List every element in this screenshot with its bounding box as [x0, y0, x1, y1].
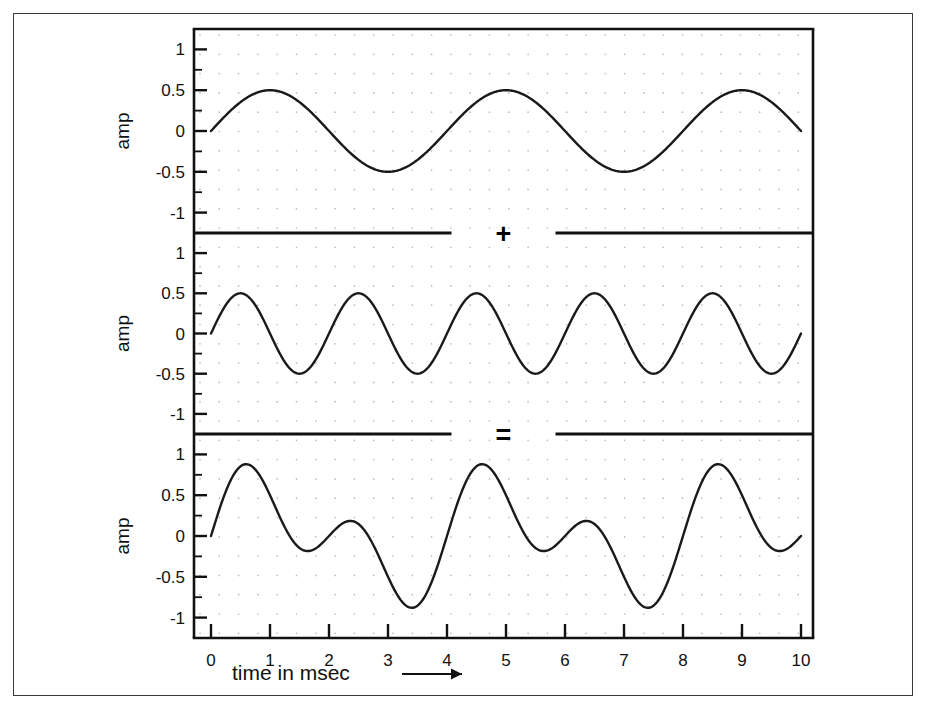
panel-separator-equals: =	[194, 420, 813, 450]
y-axis-label-bottom: amp	[112, 518, 133, 555]
waveform-bottom	[211, 464, 801, 608]
x-tick-label: 9	[737, 651, 746, 670]
y-tick-label: 0	[176, 325, 185, 344]
y-tick-label: 0.5	[161, 81, 185, 100]
x-tick-label: 8	[678, 651, 687, 670]
y-tick-label: 0.5	[161, 486, 185, 505]
y-tick-label: -0.5	[156, 163, 185, 182]
y-tick-label: 1	[176, 244, 185, 263]
plot-panel-middle: -1-0.500.51amp	[112, 233, 813, 434]
y-tick-label: 1	[176, 445, 185, 464]
y-tick-label: 0	[176, 527, 185, 546]
panel-separator-plus: +	[194, 219, 813, 249]
x-axis-arrow-head	[451, 669, 462, 680]
y-axis-label-middle: amp	[112, 315, 133, 352]
y-tick-label: -1	[170, 204, 185, 223]
operator-equals: =	[496, 420, 512, 450]
waveform-middle	[211, 293, 801, 373]
y-tick-label: -1	[170, 405, 185, 424]
x-tick-label: 4	[442, 651, 451, 670]
y-axis-label-top: amp	[112, 113, 133, 150]
plot-panel-bottom: -1-0.500.51amp	[112, 434, 813, 638]
x-tick-label: 7	[619, 651, 628, 670]
plot-box	[193, 29, 815, 638]
y-tick-label: -1	[170, 609, 185, 628]
figure-frame: -1-0.500.51amp-1-0.500.51amp-1-0.500.51a…	[13, 13, 913, 696]
background-grid	[199, 34, 799, 634]
operator-plus: +	[496, 219, 512, 249]
x-tick-label: 10	[792, 651, 811, 670]
y-tick-label: 0.5	[161, 284, 185, 303]
x-tick-label: 3	[383, 651, 392, 670]
x-axis-title: time in msec	[232, 661, 350, 684]
x-tick-label: 5	[501, 651, 510, 670]
y-tick-label: -0.5	[156, 568, 185, 587]
y-tick-label: -0.5	[156, 365, 185, 384]
x-tick-label: 6	[560, 651, 569, 670]
x-axis-title-group: time in msec	[232, 661, 462, 684]
y-tick-label: 0	[176, 122, 185, 141]
waveform-top	[211, 90, 801, 172]
plot-panel-top: -1-0.500.51amp	[112, 29, 813, 233]
x-tick-label: 0	[206, 651, 215, 670]
y-tick-label: 1	[176, 40, 185, 59]
waveform-addition-figure: -1-0.500.51amp-1-0.500.51amp-1-0.500.51a…	[14, 14, 914, 697]
